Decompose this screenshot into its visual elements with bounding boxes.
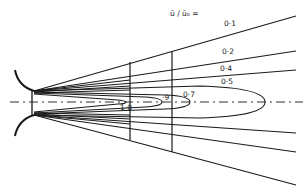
jet-velocity-contour-diagram: ū / ū₀ = 0·1 0·2 0·4 0·5 0·7 ·9 1·0 <box>0 0 307 193</box>
contour-label-0-4: 0·4 <box>220 64 232 73</box>
nozzle-lower-lip <box>15 115 34 136</box>
contour-line-0-1-lower <box>34 115 296 185</box>
velocity-ratio-title: ū / ū₀ = <box>170 9 198 18</box>
contour-label-0-5: 0·5 <box>221 77 233 86</box>
contour-label-0-7: 0·7 <box>183 90 195 99</box>
contour-label-0-2: 0·2 <box>222 47 234 56</box>
contour-line-0-2-upper <box>34 51 296 91</box>
contour-line-0-4-upper <box>34 70 296 91</box>
contour-line-0-2-lower <box>34 115 296 152</box>
contour-label-0-1: 0·1 <box>224 19 236 28</box>
contour-line-0-1-upper <box>34 16 296 91</box>
contour-label-0-9: ·9 <box>162 93 169 102</box>
contour-label-1-0: 1·0 <box>120 103 132 112</box>
nozzle-upper-lip <box>15 70 34 91</box>
